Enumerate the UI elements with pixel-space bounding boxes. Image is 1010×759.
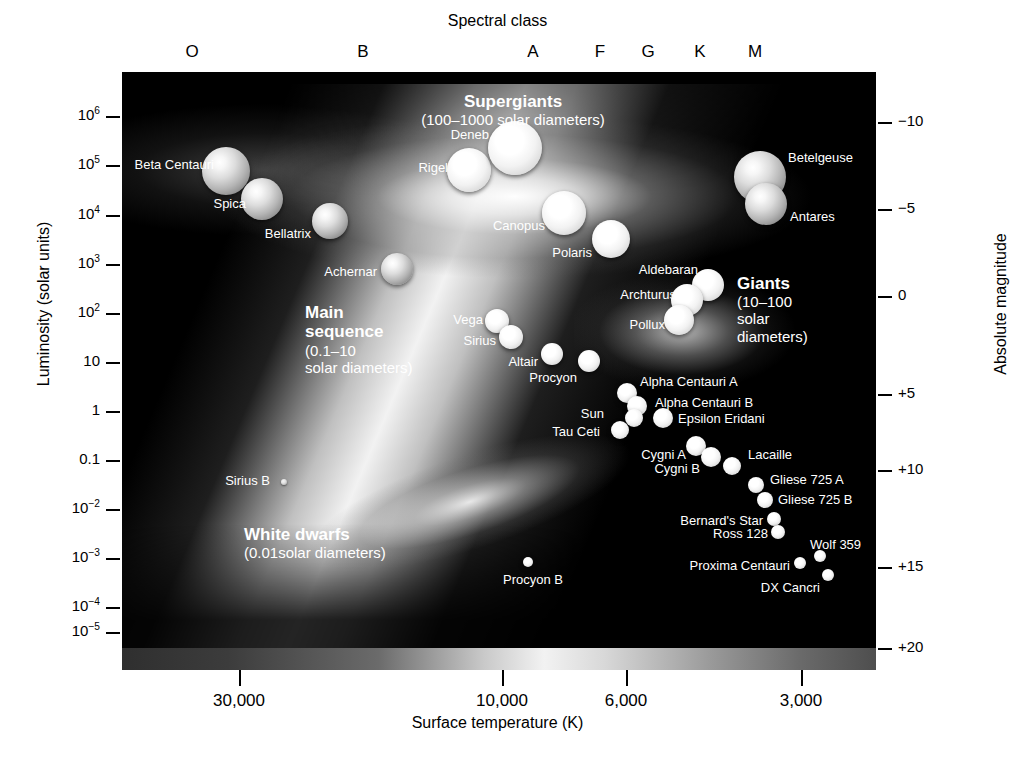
white-dwarfs-title: White dwarfs bbox=[244, 525, 386, 544]
y-tick-label-left: 10−5 bbox=[0, 622, 100, 639]
star-marker bbox=[794, 557, 806, 569]
y-tick-label-right: 0 bbox=[898, 286, 906, 303]
x-tick bbox=[801, 670, 803, 686]
y-tick-label-right: −10 bbox=[898, 112, 923, 129]
x-tick bbox=[626, 670, 628, 686]
star-marker bbox=[541, 343, 563, 365]
y-tick-left bbox=[106, 116, 120, 118]
star-label: Sirius B bbox=[225, 474, 270, 488]
y-tick-left bbox=[106, 632, 120, 634]
star-label: Beta Centauri bbox=[135, 158, 215, 172]
star-label: Bellatrix bbox=[265, 227, 311, 241]
star-label: Pollux bbox=[630, 318, 665, 332]
y-tick-right bbox=[878, 122, 892, 124]
star-label: DX Cancri bbox=[761, 581, 820, 595]
star-label: Cygni B bbox=[654, 462, 700, 476]
star-label: Achernar bbox=[324, 265, 377, 279]
star-marker bbox=[542, 191, 586, 235]
supergiants-title: Supergiants bbox=[421, 92, 604, 111]
y-axis-right-title: Absolute magnitude bbox=[992, 164, 1010, 444]
spectral-class-title: Spectral class bbox=[0, 12, 995, 30]
y-tick-right bbox=[878, 394, 892, 396]
y-tick-label-left: 106 bbox=[0, 106, 100, 123]
x-tick-label: 30,000 bbox=[195, 691, 283, 711]
star-marker bbox=[488, 121, 542, 175]
star-marker bbox=[447, 148, 491, 192]
x-tick-label: 6,000 bbox=[582, 691, 670, 711]
y-tick-left bbox=[106, 558, 120, 560]
main-sequence-title-line: Main bbox=[305, 303, 413, 322]
star-marker bbox=[381, 253, 413, 285]
white-dwarfs-subtitle: (0.01solar diameters) bbox=[244, 544, 386, 561]
y-axis-left-title: Luminosity (solar units) bbox=[35, 164, 53, 444]
star-marker bbox=[745, 183, 787, 225]
y-tick-left bbox=[106, 460, 120, 462]
star-marker bbox=[653, 408, 673, 428]
star-label: Rigel bbox=[418, 161, 448, 175]
star-marker bbox=[664, 305, 694, 335]
spectral-class-K: K bbox=[694, 42, 705, 62]
annotation-supergiants: Supergiants(100–1000 solar diameters) bbox=[421, 92, 604, 128]
y-tick-label-right: −5 bbox=[898, 199, 915, 216]
annotation-giants: Giants(10–100solardiameters) bbox=[737, 274, 808, 345]
star-label: Lacaille bbox=[748, 448, 792, 462]
y-tick-right bbox=[878, 648, 892, 650]
plot-background: Beta CentauriSpicaBellatrixAchernarRigel… bbox=[122, 72, 876, 648]
x-tick bbox=[502, 670, 504, 686]
y-tick-right bbox=[878, 470, 892, 472]
star-label: Betelgeuse bbox=[788, 151, 853, 165]
spectral-class-A: A bbox=[527, 42, 538, 62]
y-tick-left bbox=[106, 411, 120, 413]
star-marker bbox=[241, 178, 283, 220]
star-label: Procyon B bbox=[503, 573, 563, 587]
y-tick-left bbox=[106, 264, 120, 266]
star-marker bbox=[767, 512, 781, 526]
star-marker bbox=[592, 220, 630, 258]
star-marker bbox=[281, 479, 287, 485]
star-marker bbox=[757, 492, 773, 508]
y-tick-left bbox=[106, 215, 120, 217]
y-tick-left bbox=[106, 362, 120, 364]
main-sequence-subtitle-line: (0.1–10 bbox=[305, 342, 413, 359]
main-sequence-title-line: sequence bbox=[305, 322, 413, 341]
annotation-main-sequence: Mainsequence(0.1–10solar diameters) bbox=[305, 303, 413, 376]
y-tick-label-right: +5 bbox=[898, 384, 915, 401]
star-label: Vega bbox=[453, 313, 483, 327]
supergiants-subtitle: (100–1000 solar diameters) bbox=[421, 111, 604, 128]
x-tick bbox=[239, 670, 241, 686]
spectral-class-G: G bbox=[641, 42, 654, 62]
y-tick-left bbox=[106, 607, 120, 609]
star-label: Alpha Centauri B bbox=[655, 396, 753, 410]
main-sequence-subtitle-line: solar diameters) bbox=[305, 359, 413, 376]
y-tick-right bbox=[878, 209, 892, 211]
star-marker bbox=[523, 557, 533, 567]
giants-subtitle-line: solar bbox=[737, 310, 808, 327]
y-tick-left bbox=[106, 165, 120, 167]
star-label: Altair bbox=[508, 355, 538, 369]
y-tick-label-left: 0.1 bbox=[0, 450, 100, 467]
star-label: Archturus bbox=[620, 288, 676, 302]
star-label: Alpha Centauri A bbox=[640, 375, 738, 389]
star-label: Sirius bbox=[463, 334, 496, 348]
star-marker bbox=[748, 477, 764, 493]
spectral-class-O: O bbox=[185, 42, 198, 62]
giants-subtitle-line: (10–100 bbox=[737, 293, 808, 310]
giants-subtitle-line: diameters) bbox=[737, 328, 808, 345]
x-tick-label: 10,000 bbox=[458, 691, 546, 711]
x-axis-title: Surface temperature (K) bbox=[0, 714, 995, 732]
star-label: Proxima Centauri bbox=[690, 559, 790, 573]
y-tick-label-left: 10−4 bbox=[0, 597, 100, 614]
y-tick-right bbox=[878, 296, 892, 298]
star-label: Sun bbox=[581, 407, 604, 421]
star-label: Deneb bbox=[451, 128, 489, 142]
y-tick-label-left: 10−3 bbox=[0, 548, 100, 565]
star-marker bbox=[578, 350, 600, 372]
spectral-class-B: B bbox=[357, 42, 368, 62]
star-marker bbox=[499, 325, 523, 349]
y-tick-label-left: 10−2 bbox=[0, 499, 100, 516]
star-marker bbox=[611, 421, 629, 439]
y-tick-label-right: +15 bbox=[898, 557, 923, 574]
star-label: Cygni A bbox=[641, 448, 686, 462]
temperature-color-strip bbox=[122, 648, 876, 670]
